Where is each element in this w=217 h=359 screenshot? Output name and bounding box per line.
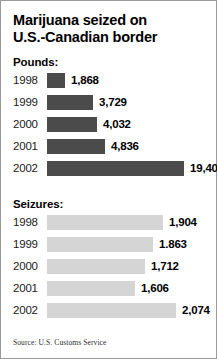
bar-value-label: 1,712 <box>151 260 179 272</box>
table-row: 1999 3,729 <box>11 93 206 111</box>
title-line-2: U.S.-Canadian border <box>13 29 206 46</box>
row-year-label: 1998 <box>13 216 47 228</box>
bar-value-label: 1,606 <box>141 282 169 294</box>
bar-value-label: 3,729 <box>99 96 127 108</box>
bar-area: 3,729 <box>47 93 206 111</box>
row-year-label: 1998 <box>13 74 47 86</box>
row-year-label: 2001 <box>13 282 47 294</box>
bar-value-label: 1,904 <box>169 216 197 228</box>
infographic-card: Marijuana seized on U.S.-Canadian border… <box>0 0 217 359</box>
bar-area: 4,032 <box>47 115 206 133</box>
bar-pounds-1998 <box>47 73 65 88</box>
bar-value-label: 19,405 <box>190 162 217 174</box>
row-year-label: 2001 <box>13 140 47 152</box>
table-row: 2000 1,712 <box>11 257 206 275</box>
bar-area: 2,074 <box>47 301 210 319</box>
section-spacer <box>11 181 206 188</box>
page-title: Marijuana seized on U.S.-Canadian border <box>13 12 206 46</box>
bar-area: 1,712 <box>47 257 206 275</box>
bar-value-label: 4,032 <box>103 118 131 130</box>
section-header-seizures: Seizures: <box>13 198 206 210</box>
table-row: 1998 1,868 <box>11 71 206 89</box>
bar-area: 1.863 <box>47 235 206 253</box>
bar-pounds-2000 <box>47 117 97 132</box>
bar-seizures-1999 <box>47 237 153 252</box>
bar-area: 1,904 <box>47 213 206 231</box>
section-pounds: Pounds: 1998 1,868 1999 3,729 2000 <box>11 56 206 177</box>
section-header-pounds: Pounds: <box>13 56 206 68</box>
row-year-label: 2002 <box>13 162 47 174</box>
bar-area: 19,405 <box>47 159 217 177</box>
row-year-label: 2002 <box>13 304 47 316</box>
bar-area: 4,836 <box>47 137 206 155</box>
row-year-label: 2000 <box>13 260 47 272</box>
bar-pounds-2001 <box>47 139 105 154</box>
bar-seizures-2002 <box>47 303 176 318</box>
source-note: Source: U.S. Customs Service <box>13 338 106 347</box>
row-year-label: 1999 <box>13 238 47 250</box>
row-year-label: 2000 <box>13 118 47 130</box>
table-row: 1999 1.863 <box>11 235 206 253</box>
bar-value-label: 2,074 <box>182 304 210 316</box>
bar-rows-seizures: 1998 1,904 1999 1.863 2000 1,712 <box>11 213 206 319</box>
bar-area: 1,868 <box>47 71 206 89</box>
bar-value-label: 4,836 <box>111 140 139 152</box>
bar-seizures-1998 <box>47 215 163 230</box>
bar-pounds-2002 <box>47 161 184 176</box>
bar-rows-pounds: 1998 1,868 1999 3,729 2000 4,032 <box>11 71 206 177</box>
table-row: 2001 4,836 <box>11 137 206 155</box>
table-row: 1998 1,904 <box>11 213 206 231</box>
table-row: 2002 2,074 <box>11 301 206 319</box>
table-row: 2001 1,606 <box>11 279 206 297</box>
bar-pounds-1999 <box>47 95 93 110</box>
table-row: 2000 4,032 <box>11 115 206 133</box>
bar-value-label: 1.863 <box>159 238 187 250</box>
bar-seizures-2000 <box>47 259 145 274</box>
bar-area: 1,606 <box>47 279 206 297</box>
bar-seizures-2001 <box>47 281 135 296</box>
section-seizures: Seizures: 1998 1,904 1999 1.863 2000 <box>11 198 206 319</box>
bar-value-label: 1,868 <box>71 74 99 86</box>
title-line-1: Marijuana seized on <box>13 12 206 29</box>
table-row: 2002 19,405 <box>11 159 206 177</box>
row-year-label: 1999 <box>13 96 47 108</box>
